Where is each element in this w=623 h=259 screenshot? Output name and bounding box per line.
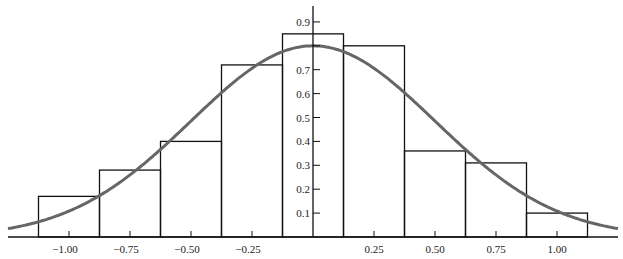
x-tick-label: 1.00 xyxy=(547,243,567,255)
x-tick-label: −1.00 xyxy=(52,243,78,255)
y-tick-label: 0.5 xyxy=(296,112,310,124)
y-tick-label: 0.9 xyxy=(296,16,310,28)
x-tick-label: −0.25 xyxy=(235,243,261,255)
histogram-bar xyxy=(344,46,405,237)
x-tick-label: 0.75 xyxy=(486,243,506,255)
x-tick-label: −0.50 xyxy=(174,243,200,255)
x-tick-label: −0.75 xyxy=(113,243,139,255)
y-tick-label: 0.2 xyxy=(296,183,310,195)
histogram-bar xyxy=(161,141,222,237)
y-tick-label: 0.1 xyxy=(296,207,310,219)
histogram-bar xyxy=(100,170,161,237)
y-tick-label: 0.6 xyxy=(296,88,310,100)
y-tick-label: 0.3 xyxy=(296,159,310,171)
histogram-bar xyxy=(405,151,466,237)
x-tick-label: 0.50 xyxy=(425,243,445,255)
histogram-bar xyxy=(222,65,283,237)
x-tick-label: 0.25 xyxy=(364,243,384,255)
y-tick-label: 0.4 xyxy=(296,135,310,147)
histogram-chart: −1.00−0.75−0.50−0.250.250.500.751.00 0.1… xyxy=(0,0,623,259)
y-tick-label: 0.7 xyxy=(296,64,310,76)
x-axis-ticks: −1.00−0.75−0.50−0.250.250.500.751.00 xyxy=(52,231,567,255)
